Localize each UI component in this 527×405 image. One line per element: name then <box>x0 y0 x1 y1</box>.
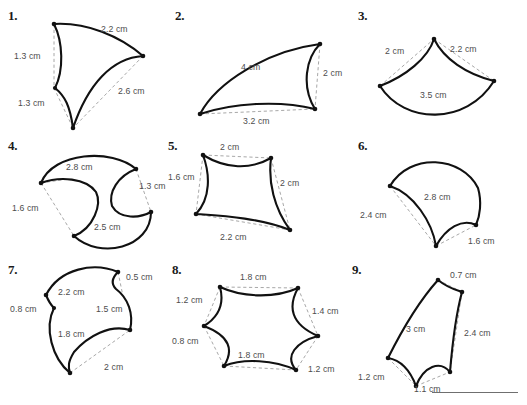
figure-7-outline <box>46 267 131 373</box>
figure-6-number: 6. <box>358 138 367 154</box>
figure-1-vertex-c <box>71 126 76 131</box>
figure-4-chord-left <box>41 183 74 236</box>
figure-2-number: 2. <box>175 8 184 24</box>
figure-6: 6. 2.8 cm 2.4 cm 1.6 cm <box>358 136 523 258</box>
figure-7-label-6: 2 cm <box>104 362 123 372</box>
figure-4-vertex-b <box>134 167 139 172</box>
figure-1-vertex-a <box>52 22 57 27</box>
figure-7-number: 7. <box>8 262 17 278</box>
figure-5-label-3: 2 cm <box>280 178 299 188</box>
figure-3-number: 3. <box>358 8 367 24</box>
figure-4-label-2: 1.3 cm <box>139 181 166 191</box>
figure-3-vertex-apex <box>432 37 437 42</box>
figure-9-number: 9. <box>352 262 361 278</box>
figure-4-label-1: 2.8 cm <box>66 162 93 172</box>
figure-6-vertex-a <box>388 184 393 189</box>
figure-8-label-4: 0.8 cm <box>172 336 199 346</box>
figure-7-label-5: 1.8 cm <box>58 329 85 339</box>
figure-2-outline <box>200 44 320 114</box>
figure-7-label-2: 2.2 cm <box>58 287 85 297</box>
figure-9-vertex-b <box>460 290 465 295</box>
figure-9-label-3: 2.4 cm <box>464 328 491 338</box>
figure-3-drawing <box>358 6 523 131</box>
figure-4-vertex-c <box>149 210 154 215</box>
figure-5-vertex-d <box>194 212 199 217</box>
figure-8: 8. 1.8 cm 1.2 cm 1.4 cm 0.8 cm 1.8 cm 1.… <box>172 262 347 402</box>
figure-8-vertex-d <box>294 368 299 373</box>
figure-2-vertex-a <box>198 112 203 117</box>
figure-8-number: 8. <box>172 262 181 278</box>
figure-3-vertex-right <box>492 79 497 84</box>
figure-1-vertex-b <box>141 54 146 59</box>
figure-5-number: 5. <box>168 138 177 154</box>
figure-4-vertex-d <box>72 234 77 239</box>
figure-1-label-1: 2.2 cm <box>101 24 128 34</box>
figure-8-label-5: 1.8 cm <box>238 350 265 360</box>
figure-1-label-3: 2.6 cm <box>118 86 145 96</box>
figure-2-label-1: 4 cm <box>241 62 260 72</box>
figure-8-label-1: 1.8 cm <box>240 272 267 282</box>
figure-7-drawing <box>8 262 173 402</box>
figure-8-chord-top <box>220 287 298 288</box>
figure-5-vertex-a <box>201 153 206 158</box>
figure-6-label-2: 2.4 cm <box>360 210 387 220</box>
figure-8-vertex-e <box>222 364 227 369</box>
figure-4-drawing <box>8 136 178 256</box>
figure-3-label-3: 3.5 cm <box>420 90 447 100</box>
figure-5-label-1: 2 cm <box>220 142 239 152</box>
figure-9: 9. 0.7 cm 3 cm 2.4 cm 1.2 cm 1.1 cm <box>352 262 524 402</box>
figure-6-label-3: 1.6 cm <box>468 236 495 246</box>
figure-8-label-6: 1.2 cm <box>308 364 335 374</box>
figure-3-label-2: 2.2 cm <box>450 44 477 54</box>
figure-3-label-1: 2 cm <box>385 46 404 56</box>
figure-8-vertex-f <box>202 324 207 329</box>
figure-7-label-1: 0.5 cm <box>126 272 153 282</box>
figure-9-vertex-a <box>436 278 441 283</box>
figure-8-vertex-a <box>218 285 223 290</box>
figure-2-label-3: 3.2 cm <box>243 116 270 126</box>
figure-9-label-2: 3 cm <box>406 324 425 334</box>
figure-9-vertex-e <box>386 356 391 361</box>
figure-7-vertex-b <box>116 270 121 275</box>
figure-8-label-2: 1.2 cm <box>176 295 203 305</box>
figure-4-vertex-a <box>39 181 44 186</box>
figure-6-outline <box>390 162 480 246</box>
worksheet-page: 1. 2.2 cm 1.3 cm 2.6 cm 1.3 cm 2. <box>0 0 527 405</box>
figure-1-number: 1. <box>8 8 17 24</box>
figure-5-vertex-c <box>288 228 293 233</box>
figure-7-label-3: 1.5 cm <box>96 304 123 314</box>
figure-2-vertex-c <box>313 107 318 112</box>
figure-5-chord-top <box>203 155 271 158</box>
figure-7-vertex-a <box>44 293 49 298</box>
figure-8-vertex-c <box>316 334 321 339</box>
figure-6-label-1: 2.8 cm <box>424 192 451 202</box>
figure-3: 3. 2 cm 2.2 cm 3.5 cm <box>358 6 523 131</box>
figure-2: 2. 4 cm 2 cm 3.2 cm <box>175 6 350 131</box>
figure-7-label-4: 0.8 cm <box>10 304 37 314</box>
figure-5: 5. 2 cm 1.6 cm 2 cm 2.2 cm <box>168 136 323 256</box>
figure-6-vertex-c <box>434 244 439 249</box>
figure-2-label-2: 2 cm <box>323 68 342 78</box>
figure-9-label-1: 0.7 cm <box>450 270 477 280</box>
footer-rule <box>432 392 518 393</box>
figure-2-chord-right <box>315 44 320 109</box>
figure-1-drawing <box>8 6 173 131</box>
figure-7-vertex-e <box>52 306 56 310</box>
figure-1-label-4: 1.3 cm <box>18 98 45 108</box>
figure-7-vertex-d <box>68 371 73 376</box>
figure-5-label-2: 1.6 cm <box>168 172 195 182</box>
figure-2-vertex-b <box>318 42 323 47</box>
figure-5-vertex-b <box>269 156 274 161</box>
figure-1-outline <box>54 24 143 128</box>
figure-9-vertex-c <box>448 370 453 375</box>
figure-7-vertex-c <box>128 328 133 333</box>
figure-5-outline <box>196 155 290 230</box>
figure-4-label-4: 2.5 cm <box>94 222 121 232</box>
figure-8-label-3: 1.4 cm <box>312 306 339 316</box>
figure-4-number: 4. <box>8 138 17 154</box>
figure-3-vertex-left <box>378 84 383 89</box>
figure-9-label-4: 1.2 cm <box>358 372 385 382</box>
figure-6-vertex-b <box>474 223 479 228</box>
figure-8-vertex-b <box>296 286 301 291</box>
figure-1-vertex-d <box>53 86 57 90</box>
